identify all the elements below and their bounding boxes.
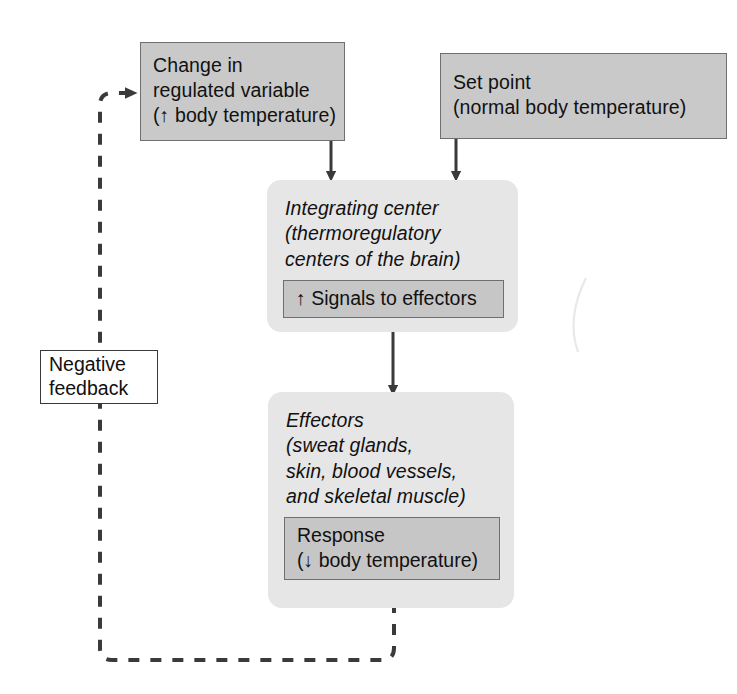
negative-feedback-line-1: Negative [49, 352, 151, 376]
response-sub-text: body temperature) [313, 549, 478, 571]
diagram-canvas: Change in regulated variable (↑ body tem… [0, 0, 737, 694]
response-line-2: (↓ body temperature) [297, 548, 491, 573]
effectors-line-1: Effectors [286, 408, 514, 433]
stimulus-paren-open: ( [153, 104, 160, 126]
down-arrow-icon: ↓ [304, 549, 314, 571]
stimulus-sub-text: body temperature) [169, 104, 336, 126]
scan-artifact-curve [574, 278, 587, 352]
integrating-center-title: Integrating center (thermoregulatory cen… [267, 190, 518, 280]
node-integrating-center[interactable]: Integrating center (thermoregulatory cen… [267, 180, 518, 332]
effectors-line-4: and skeletal muscle) [286, 484, 514, 509]
stimulus-line-2: regulated variable [153, 78, 334, 103]
node-change-in-regulated-variable[interactable]: Change in regulated variable (↑ body tem… [140, 42, 345, 141]
negative-feedback-line-2: feedback [49, 376, 151, 400]
setpoint-line-1: Set point [453, 70, 716, 95]
up-arrow-icon: ↑ [296, 287, 306, 309]
node-effectors[interactable]: Effectors (sweat glands, skin, blood ves… [268, 392, 514, 608]
node-negative-feedback[interactable]: Negative feedback [40, 350, 158, 404]
effectors-line-3: skin, blood vessels, [286, 459, 514, 484]
node-set-point[interactable]: Set point (normal body temperature) [440, 53, 727, 139]
integrating-center-line-2: (thermoregulatory [285, 221, 518, 246]
setpoint-line-2: (normal body temperature) [453, 95, 716, 120]
effectors-title: Effectors (sweat glands, skin, blood ves… [268, 402, 514, 517]
effectors-line-2: (sweat glands, [286, 433, 514, 458]
response-line-1: Response [297, 523, 491, 548]
stimulus-line-3: (↑ body temperature) [153, 103, 334, 128]
integrating-center-line-3: centers of the brain) [285, 247, 518, 272]
up-arrow-icon: ↑ [160, 104, 170, 126]
signals-line: ↑ Signals to effectors [296, 286, 495, 311]
signals-to-effectors-box[interactable]: ↑ Signals to effectors [283, 280, 504, 318]
integrating-center-line-1: Integrating center [285, 196, 518, 221]
response-box[interactable]: Response (↓ body temperature) [284, 517, 500, 580]
signals-text: Signals to effectors [306, 287, 477, 309]
stimulus-line-1: Change in [153, 53, 334, 78]
